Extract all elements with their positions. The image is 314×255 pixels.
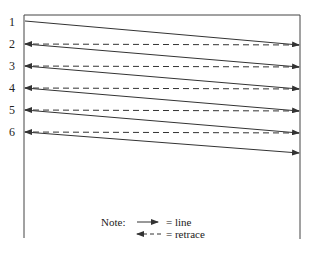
retrace-line xyxy=(25,88,299,89)
row-label-3: 3 xyxy=(9,60,15,72)
row-label-6: 6 xyxy=(9,126,15,138)
retrace-line xyxy=(25,132,299,133)
legend-title: Note: xyxy=(101,216,125,228)
scan-lines xyxy=(25,21,299,153)
retrace-line xyxy=(25,44,299,45)
legend-line-label: = line xyxy=(166,216,191,228)
row-label-1: 1 xyxy=(9,16,15,28)
frame xyxy=(24,15,300,239)
scan-line xyxy=(25,110,299,133)
legend-arrows xyxy=(137,222,161,234)
scan-line xyxy=(25,66,299,89)
legend-retrace-label: = retrace xyxy=(166,228,205,240)
row-label-5: 5 xyxy=(9,104,15,116)
retrace-line xyxy=(25,110,299,111)
retrace-line xyxy=(25,66,299,67)
scan-line xyxy=(25,44,299,67)
scan-line xyxy=(25,132,299,153)
scan-line xyxy=(25,21,299,45)
raster-scan-diagram xyxy=(0,0,314,255)
row-label-4: 4 xyxy=(9,82,15,94)
scan-line xyxy=(25,88,299,111)
row-label-2: 2 xyxy=(9,38,15,50)
